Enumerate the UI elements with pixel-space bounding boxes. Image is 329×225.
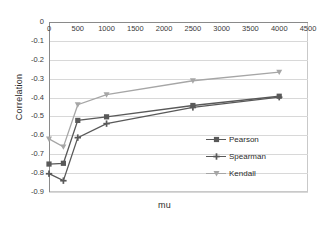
data-point-plus xyxy=(75,134,81,140)
y-tick-label: -0.1 xyxy=(18,37,44,45)
legend-label: Spearman xyxy=(229,152,266,161)
data-point-plus xyxy=(60,177,66,183)
data-point-plus xyxy=(213,153,219,159)
legend-marker-triangle-down-icon xyxy=(206,168,226,179)
y-tick-label: -0.6 xyxy=(18,131,44,139)
data-point-square xyxy=(46,161,51,166)
data-point-triangle-down xyxy=(46,137,52,142)
legend-label: Pearson xyxy=(229,135,259,144)
data-point-plus xyxy=(103,120,109,126)
chart-legend: PearsonSpearmanKendall xyxy=(206,131,302,182)
gridline xyxy=(49,192,308,193)
data-point-plus xyxy=(46,170,52,176)
data-point-square xyxy=(104,114,109,119)
y-tick-label: -0.9 xyxy=(18,188,44,196)
y-tick-label: -0.8 xyxy=(18,169,44,177)
y-axis-title: Correlation xyxy=(14,62,24,132)
chart-container: 0-0.1-0.2-0.3-0.4-0.5-0.6-0.7-0.8-0.9 05… xyxy=(0,0,329,225)
y-tick-label: -0.7 xyxy=(18,150,44,158)
legend-marker-plus-icon xyxy=(206,151,226,162)
data-point-triangle-down xyxy=(60,144,66,149)
legend-item-spearman[interactable]: Spearman xyxy=(206,148,302,165)
legend-item-kendall[interactable]: Kendall xyxy=(206,165,302,182)
data-point-triangle-down xyxy=(213,171,219,176)
legend-item-pearson[interactable]: Pearson xyxy=(206,131,302,148)
data-point-square xyxy=(213,137,218,142)
x-axis-title: mu xyxy=(0,200,329,210)
data-point-square xyxy=(75,118,80,123)
data-point-square xyxy=(61,161,66,166)
legend-marker-square-icon xyxy=(206,134,226,145)
data-point-triangle-down xyxy=(75,102,81,107)
legend-label: Kendall xyxy=(229,169,256,178)
